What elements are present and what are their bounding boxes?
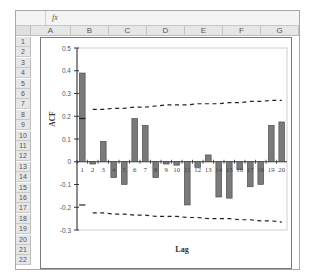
- row-header-20[interactable]: 20: [16, 235, 31, 245]
- x-tick-label: 5: [123, 166, 127, 173]
- x-tick-label: 11: [184, 166, 191, 173]
- x-tick-label: 17: [247, 166, 254, 173]
- plot-area-border: [77, 48, 287, 230]
- row-header-16[interactable]: 16: [16, 193, 31, 203]
- x-tick-label: 6: [133, 166, 137, 173]
- x-tick-label: 12: [194, 166, 201, 173]
- row-header-14[interactable]: 14: [16, 172, 31, 182]
- column-header-b[interactable]: B: [71, 26, 109, 36]
- acf-bar: [279, 122, 285, 162]
- x-tick-label: 1: [81, 166, 84, 173]
- y-tick-label: 0.3: [62, 90, 71, 97]
- formula-bar: fx: [16, 11, 299, 26]
- x-tick-label: 18: [257, 166, 264, 173]
- row-header-5[interactable]: 5: [16, 79, 31, 89]
- row-header-2[interactable]: 2: [16, 47, 31, 57]
- row-header-12[interactable]: 12: [16, 151, 31, 161]
- x-tick-label: 13: [205, 166, 212, 173]
- y-tick-label: -0.2: [60, 204, 72, 211]
- y-tick-label: 0: [67, 158, 71, 165]
- x-tick-label: 9: [165, 166, 169, 173]
- y-tick-label: 0.1: [62, 136, 71, 143]
- acf-bar: [205, 155, 211, 162]
- y-axis-title: ACF: [48, 111, 57, 127]
- acf-bar: [79, 73, 85, 162]
- select-all-corner[interactable]: [16, 26, 31, 36]
- acf-bar: [100, 141, 106, 161]
- row-header-13[interactable]: 13: [16, 162, 31, 172]
- fx-icon[interactable]: fx: [52, 11, 58, 25]
- spreadsheet-window: fx ABCDEFG 12345678910111213141516171819…: [15, 10, 300, 270]
- acf-bar: [142, 125, 148, 161]
- column-header-d[interactable]: D: [147, 26, 185, 36]
- x-tick-label: 16: [236, 166, 243, 173]
- x-tick-label: 10: [173, 166, 180, 173]
- row-header-11[interactable]: 11: [16, 141, 31, 151]
- x-tick-label: 3: [102, 166, 106, 173]
- acf-bar: [174, 162, 180, 165]
- acf-chart[interactable]: 0.50.40.30.20.10-0.1-0.2-0.3123456789101…: [40, 37, 292, 269]
- column-header-g[interactable]: G: [261, 26, 299, 36]
- x-axis-title: Lag: [175, 245, 188, 254]
- column-header-a[interactable]: A: [31, 26, 71, 36]
- row-header-9[interactable]: 9: [16, 120, 31, 130]
- upper-confidence-band: [93, 100, 282, 109]
- row-header-17[interactable]: 17: [16, 203, 31, 213]
- row-header-19[interactable]: 19: [16, 224, 31, 234]
- x-tick-label: 4: [112, 166, 116, 173]
- row-header-6[interactable]: 6: [16, 89, 31, 99]
- row-header-10[interactable]: 10: [16, 131, 31, 141]
- column-header-c[interactable]: C: [109, 26, 147, 36]
- acf-bar: [90, 162, 96, 164]
- row-header-8[interactable]: 8: [16, 110, 31, 120]
- y-tick-label: -0.1: [60, 181, 72, 188]
- chart-plot: 0.50.40.30.20.10-0.1-0.2-0.3123456789101…: [41, 38, 293, 270]
- x-tick-label: 7: [144, 166, 148, 173]
- x-tick-label: 14: [215, 166, 222, 173]
- acf-bar: [132, 119, 138, 162]
- row-header-18[interactable]: 18: [16, 214, 31, 224]
- acf-bar: [268, 125, 274, 161]
- row-header-7[interactable]: 7: [16, 99, 31, 109]
- name-box[interactable]: [16, 11, 46, 25]
- x-tick-label: 15: [226, 166, 233, 173]
- row-header-4[interactable]: 4: [16, 68, 31, 78]
- x-tick-label: 2: [91, 166, 95, 173]
- y-tick-label: -0.3: [60, 227, 72, 234]
- y-tick-label: 0.2: [62, 113, 71, 120]
- x-tick-label: 20: [278, 166, 285, 173]
- row-header-1[interactable]: 1: [16, 37, 31, 47]
- y-tick-label: 0.4: [62, 67, 71, 74]
- x-tick-label: 8: [154, 166, 158, 173]
- column-header-f[interactable]: F: [223, 26, 261, 36]
- lower-confidence-band: [93, 213, 282, 222]
- x-tick-label: 19: [268, 166, 275, 173]
- row-header-22[interactable]: 22: [16, 255, 31, 265]
- y-tick-label: 0.5: [62, 45, 71, 52]
- column-header-e[interactable]: E: [185, 26, 223, 36]
- acf-bar: [163, 162, 169, 164]
- row-header-21[interactable]: 21: [16, 245, 31, 255]
- row-header-3[interactable]: 3: [16, 58, 31, 68]
- row-header-15[interactable]: 15: [16, 183, 31, 193]
